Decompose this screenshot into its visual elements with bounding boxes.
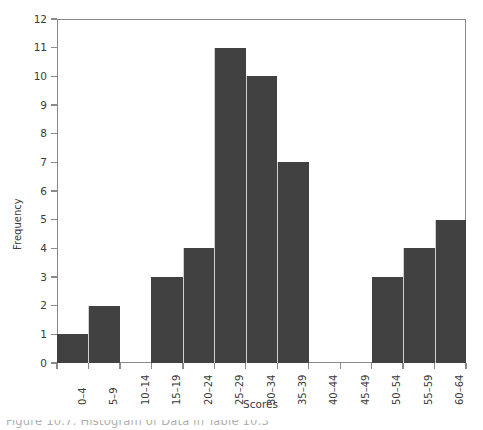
x-tick-mark xyxy=(434,363,435,369)
figure-caption-text: Figure 10.7: Histogram of Data in Table … xyxy=(6,420,269,428)
y-tick-label: 6 xyxy=(40,184,47,199)
x-tick-mark xyxy=(371,363,372,369)
y-tick-mark xyxy=(51,18,57,19)
bar-35-39 xyxy=(277,162,308,363)
y-tick-mark xyxy=(51,219,57,220)
x-tick-mark xyxy=(465,363,466,369)
x-tick-mark xyxy=(119,363,120,369)
y-tick-label: 8 xyxy=(40,126,47,141)
y-axis-title: Frequency xyxy=(10,234,120,250)
x-tick-mark xyxy=(402,363,403,369)
x-tick-mark xyxy=(182,363,183,369)
x-tick-mark xyxy=(88,363,89,369)
y-tick-label: 2 xyxy=(40,298,47,313)
x-axis-title-text: Scores xyxy=(243,398,278,410)
bar-0-4 xyxy=(57,334,88,363)
bar-60-64 xyxy=(435,220,466,363)
y-tick-label: 9 xyxy=(40,98,47,113)
bar-30-34 xyxy=(246,76,277,363)
y-tick-mark xyxy=(51,76,57,77)
bars-layer xyxy=(57,19,466,363)
bar-5-9 xyxy=(88,306,119,363)
y-tick-label: 1 xyxy=(40,327,47,342)
y-tick-label: 3 xyxy=(40,270,47,285)
bar-55-59 xyxy=(403,248,434,363)
x-tick-mark xyxy=(340,363,341,369)
y-tick-mark xyxy=(51,334,57,335)
x-tick-mark xyxy=(245,363,246,369)
y-tick-mark xyxy=(51,190,57,191)
y-tick-label: 5 xyxy=(40,212,47,227)
y-tick-label: 12 xyxy=(34,12,47,27)
figure-caption-clipped: Figure 10.7: Histogram of Data in Table … xyxy=(0,420,483,430)
x-tick-mark xyxy=(308,363,309,369)
y-tick-label: 11 xyxy=(34,40,47,55)
y-tick-mark xyxy=(51,133,57,134)
bar-15-19 xyxy=(151,277,182,363)
histogram-figure: 0123456789101112 Frequency 0–45–910–1415… xyxy=(0,0,483,430)
x-axis-title: Scores xyxy=(0,398,483,410)
bar-50-54 xyxy=(372,277,403,363)
x-tick-mark xyxy=(56,363,57,369)
y-tick-label: 0 xyxy=(40,356,47,371)
y-tick-mark xyxy=(51,162,57,163)
y-tick-label: 7 xyxy=(40,155,47,170)
x-tick-mark xyxy=(151,363,152,369)
y-axis: 0123456789101112 xyxy=(0,0,57,430)
y-tick-mark xyxy=(51,305,57,306)
bar-20-24 xyxy=(183,248,214,363)
y-tick-mark xyxy=(51,104,57,105)
x-tick-mark xyxy=(277,363,278,369)
y-tick-label: 10 xyxy=(34,69,47,84)
y-tick-mark xyxy=(51,276,57,277)
y-tick-mark xyxy=(51,47,57,48)
x-tick-mark xyxy=(214,363,215,369)
bar-25-29 xyxy=(214,48,245,363)
